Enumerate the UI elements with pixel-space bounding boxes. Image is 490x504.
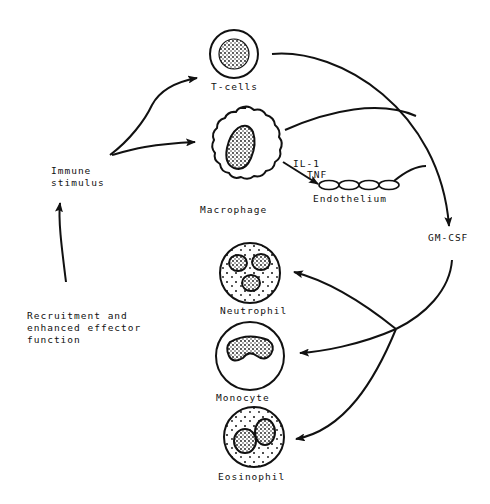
monocyte-icon [216,322,284,390]
diagram-canvas [0,0,490,504]
line-macrophage-to-gmcsf [285,108,416,130]
arrow-to-neutrophil [294,272,396,329]
arrow-recruitment-to-stimulus [59,203,66,282]
line-endothelium-to-gmcsf [394,166,426,181]
line-gmcsf-to-branch [396,260,452,329]
neutrophil-label: Neutrophil [220,305,287,317]
tnf-label: TNF [307,169,327,181]
immune-stimulus-label: Immunestimulus [51,165,105,189]
eosinophil-label: Eosinophil [218,471,285,483]
neutrophil-icon [220,243,280,303]
endothelium-icon [319,181,399,190]
t-cells-label: T-cells [211,81,258,93]
t-cell-icon [210,30,258,78]
arrow-to-monocyte [300,329,396,353]
eosinophil-icon [224,407,284,467]
monocyte-label: Monocyte [216,392,270,404]
macrophage-icon [212,106,282,178]
recruitment-label: Recruitment andenhanced effectorfunction [27,310,141,346]
gm-csf-label: GM-CSF [428,232,468,244]
endothelium-label: Endothelium [313,193,387,205]
macrophage-label: Macrophage [200,204,267,216]
